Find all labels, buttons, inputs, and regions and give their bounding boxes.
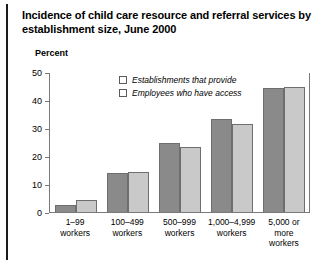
y-axis-tick [45,129,49,130]
bar [55,205,76,212]
x-axis-category-labels: 1–99 workers100–499 workers500–999 worke… [49,217,310,249]
bar [232,124,253,212]
figure-left-rule [6,4,8,260]
bar-group [154,73,206,212]
chart-title: Incidence of child care resource and ref… [22,8,312,36]
bar [159,143,180,213]
x-axis-category-label: 500–999 workers [153,217,205,249]
bar-group [102,73,154,212]
bar [107,173,128,212]
x-axis-category-label: 1,000–4,999 workers [206,217,258,249]
bar [76,200,97,213]
y-axis-tick-label: 40 [32,96,42,106]
x-axis-line [49,212,310,213]
bar-group [50,73,102,212]
y-axis-tick [45,73,49,74]
y-axis-tick [45,101,49,102]
y-axis-unit-label: Percent [35,48,68,58]
bar [211,119,232,212]
chart-figure: Incidence of child care resource and ref… [0,0,326,264]
x-axis-category-label: 1–99 workers [49,217,101,249]
y-axis-tick-label: 10 [32,180,42,190]
bar [263,88,284,212]
bar-groups [50,73,310,212]
y-axis-tick-label: 0 [37,208,42,218]
y-axis-tick-label: 20 [32,152,42,162]
y-axis-tick [45,185,49,186]
bar [284,87,305,212]
plot-area: 01020304050 Establishments that provide … [49,73,310,213]
bar-group [206,73,258,212]
bar [128,172,149,212]
x-axis-category-label: 5,000 or more workers [258,217,310,249]
y-axis-tick-label: 30 [32,124,42,134]
bar [180,147,201,212]
y-axis-tick-label: 50 [32,68,42,78]
y-axis-tick [45,213,49,214]
x-axis-category-label: 100–499 workers [101,217,153,249]
y-axis-tick [45,157,49,158]
bar-group [258,73,310,212]
